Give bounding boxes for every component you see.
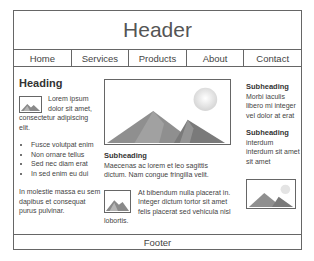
nav-label: Products [139,53,177,64]
left-column: Heading Lorem ipsum dolor sit amet, cons… [19,77,101,216]
nav-label: Services [82,53,118,64]
nav-label: Home [30,53,55,64]
header-title: Header [123,18,192,42]
image-placeholder-icon [19,96,42,113]
center-column: Subheading Maecenas ac lorem et leo sagi… [104,79,231,226]
right-text-1: Morbi iaculis libero mi integer vel dolo… [246,92,301,121]
nav-item-home[interactable]: Home [14,50,72,66]
right-column: Subheading Morbi iaculis libero mi integ… [246,82,301,209]
nav-item-services[interactable]: Services [72,50,130,66]
bullet-item: Non ornare tellus [31,150,101,160]
right-text-2: interdum interdum sit amet sit amet [246,138,301,167]
bullet-item: Sed nec diam erat [31,159,101,169]
left-heading: Heading [19,77,101,89]
center-paragraph-1: Maecenas ac lorem et leo sagittis dictum… [104,161,231,180]
mountain-landscape-icon [246,179,296,209]
mountain-landscape-icon [104,79,231,145]
center-subheading: Subheading [104,151,231,161]
right-subheading-2: Subheading [246,128,301,138]
right-subheading-1: Subheading [246,82,301,92]
page-header: Header [14,11,301,50]
left-paragraph: In molestie massa eu sem dapibus et cons… [19,187,101,216]
nav-bar: Home Services Products About Contact [14,50,301,67]
bullet-item: Fusce volutpat enim [31,140,101,150]
nav-item-about[interactable]: About [187,50,245,66]
page-footer: Footer [14,234,301,249]
footer-label: Footer [144,237,171,248]
nav-label: About [203,53,228,64]
image-placeholder-icon [104,190,131,213]
nav-item-products[interactable]: Products [129,50,187,66]
bullet-item: In sed enim eu dui [31,169,101,179]
nav-item-contact[interactable]: Contact [244,50,301,66]
left-bullet-list: Fusce volutpat enim Non ornare tellus Se… [19,140,101,178]
nav-label: Contact [256,53,289,64]
page-wireframe: Header Home Services Products About Cont… [13,10,302,250]
